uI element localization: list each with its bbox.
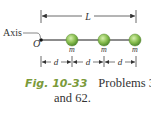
caption-text-line1: Problems 36: [98, 76, 151, 90]
axis-annotation: Axis: [3, 27, 41, 38]
mass-label: m: [132, 45, 138, 54]
spacing-label: d: [54, 57, 59, 67]
axis-label: Axis: [3, 27, 22, 38]
particle-3: m: [129, 34, 141, 54]
spacing-label: d: [86, 57, 91, 67]
caption-text-line2: and 62.: [54, 91, 91, 106]
mass-label: m: [101, 45, 107, 54]
particle-1: m: [66, 34, 78, 54]
length-dimension: L: [41, 10, 136, 23]
origin-label: O: [33, 38, 40, 49]
figure-caption: Fig. 10-33Problems 36: [25, 76, 151, 91]
figure-number: Fig. 10-33: [25, 77, 87, 90]
length-label: L: [84, 11, 91, 22]
mass-label: m: [69, 45, 75, 54]
spacing-dimensions: d d d: [41, 56, 136, 67]
spacing-label: d: [118, 57, 123, 67]
particle-2: m: [98, 34, 110, 54]
